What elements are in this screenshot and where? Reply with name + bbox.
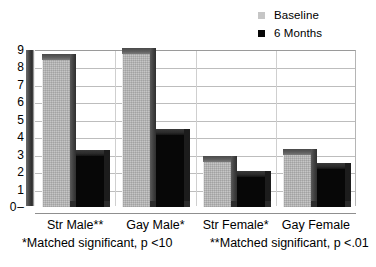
bar-side-face (104, 150, 110, 201)
bar-chart-figure: Baseline 6 Months 9876543210 Str Male**G… (0, 0, 376, 267)
chart-footnotes: *Matched significant, p <10 **Matched si… (14, 236, 366, 254)
x-axis-labels: Str Male**Gay Male*Str Female*Gay Female (26, 218, 366, 236)
bar-front-face (203, 162, 231, 207)
axis-wall-3d (26, 50, 35, 207)
y-axis-tick-7: 7 (4, 79, 24, 91)
y-axis-tick-6: 6 (4, 96, 24, 108)
bar-front-face (122, 54, 150, 208)
y-axis-tick-9: 9 (4, 44, 24, 56)
bar-6-months-3 (317, 169, 345, 207)
bar-front-face (42, 60, 70, 207)
category-divider-1 (115, 51, 116, 207)
y-axis-tick-8: 8 (4, 61, 24, 73)
bar-front-face (317, 169, 345, 207)
bar-front-face (156, 135, 184, 207)
bar-baseline-0 (42, 60, 70, 207)
plot-area (26, 50, 356, 214)
y-axis-tick-3: 3 (4, 149, 24, 161)
bar-shadow (345, 201, 351, 207)
category-divider-2 (196, 51, 197, 207)
y-axis-tick-5: 5 (4, 114, 24, 126)
legend-item-6-months: 6 Months (258, 24, 370, 42)
y-axis-tick-4: 4 (4, 131, 24, 143)
bar-front-face (283, 155, 311, 207)
bar-6-months-0 (76, 156, 104, 207)
bar-shadow (104, 201, 110, 207)
legend-swatch-baseline (258, 12, 265, 19)
bar-baseline-1 (122, 54, 150, 208)
bar-shadow (265, 201, 271, 207)
y-axis-tick-1: 1 (4, 184, 24, 196)
bar-baseline-2 (203, 162, 231, 207)
y-axis-tick-0: 0 (4, 201, 24, 213)
legend-swatch-6-months (258, 30, 265, 37)
x-axis-label-3: Gay Female (266, 218, 366, 232)
bar-baseline-3 (283, 155, 311, 207)
legend-item-baseline: Baseline (258, 6, 370, 24)
footnote-double-star: **Matched significant, p <.01 (210, 236, 369, 250)
bar-6-months-2 (237, 177, 265, 207)
legend-label-6-months: 6 Months (274, 27, 322, 39)
y-axis-tick-2: 2 (4, 166, 24, 178)
chart-legend: Baseline 6 Months (258, 6, 370, 42)
bar-side-face (265, 171, 271, 201)
y-axis: 9876543210 (4, 50, 24, 214)
category-divider-3 (276, 51, 277, 207)
axis-floor-edge (35, 213, 356, 214)
bar-side-face (345, 163, 351, 201)
bar-side-face (184, 129, 190, 201)
bar-front-face (76, 156, 104, 207)
bar-6-months-1 (156, 135, 184, 207)
bar-front-face (237, 177, 265, 207)
bar-shadow (184, 201, 190, 207)
footnote-single-star: *Matched significant, p <10 (22, 236, 172, 250)
legend-label-baseline: Baseline (274, 9, 319, 21)
